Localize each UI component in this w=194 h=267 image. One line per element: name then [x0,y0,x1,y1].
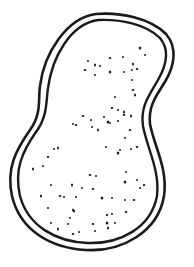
dot [97,129,99,132]
dot [109,57,112,59]
dot [131,69,133,71]
dot [129,129,132,131]
dot [117,109,119,111]
dot [50,184,52,186]
dot [132,63,134,66]
dot [136,146,139,148]
dot [94,64,96,67]
dot [47,156,50,158]
cytoplasm-dots [32,47,146,236]
dot [42,165,44,167]
dot [90,119,92,121]
dot [69,217,71,219]
dot [47,207,49,209]
dot [119,149,121,151]
dot [130,115,132,118]
dot [123,71,125,73]
dot [109,122,111,124]
dot [105,146,107,148]
dot [139,187,141,189]
dot [78,231,80,233]
dot [133,199,136,201]
dot [82,115,85,117]
dot [124,181,127,184]
dot [131,79,133,81]
dot [106,222,109,225]
dot [75,196,77,198]
dot [123,111,125,114]
dot [125,211,128,213]
dot [57,147,59,150]
dot [122,56,124,58]
dot [109,71,112,74]
dot [75,124,78,126]
dot [124,199,126,201]
dot [111,107,114,109]
dot [107,227,109,230]
dot [73,210,75,213]
dot [134,94,136,97]
dot [92,223,95,225]
dot [117,152,120,155]
dot [99,65,101,67]
dot [91,126,93,128]
inner-membrane-outline [18,20,166,243]
dot [123,114,126,116]
dot [57,228,59,231]
dot [50,222,52,224]
dot [132,89,135,91]
dot [84,69,87,71]
dot [95,175,97,177]
dot [94,230,96,232]
dot [136,179,138,181]
dot [103,116,105,118]
dot [143,184,146,186]
dot [87,60,89,62]
dot [71,184,73,187]
dot [89,174,92,176]
dot [106,214,109,216]
dot [59,195,62,197]
dot [94,74,96,76]
cell-drawing [0,0,194,267]
dot [81,187,83,189]
dot [72,233,75,235]
dot [101,197,104,200]
dot [72,123,74,125]
dot [111,197,113,199]
dot [92,188,95,190]
dot [107,121,110,124]
dot [63,196,65,198]
dot [67,223,69,225]
dot [114,222,116,224]
dot [125,171,127,173]
dot [130,148,132,150]
dot [124,137,126,139]
dot [144,54,146,56]
dot [111,213,113,215]
dot [136,68,139,70]
illustration-canvas: Line drawing of a peanut-shaped cell wit… [0,0,194,267]
dot [53,148,55,150]
dot [117,120,119,122]
dot [139,47,142,50]
dot [114,96,116,98]
dot [40,195,42,198]
dot [32,168,34,171]
